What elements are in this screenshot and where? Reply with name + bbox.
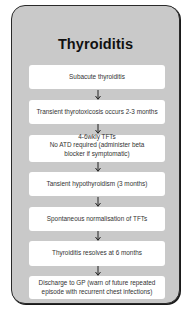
step-box-6: Thyroiditis resolves at 6 months — [29, 241, 165, 266]
step-text: Spontaneous normalisation of TFTs — [47, 215, 147, 223]
step-text: No ATD required (administer beta — [50, 141, 145, 149]
step-text: Discharge to GP (warn of future repeated — [39, 279, 156, 287]
step-box-5: Spontaneous normalisation of TFTs — [29, 207, 165, 231]
down-arrow-icon — [95, 266, 101, 276]
step-box-4: Tansient hypothyroidism (3 months) — [29, 172, 165, 196]
step-text: Thyroiditis resolves at 6 months — [52, 249, 142, 257]
down-arrow-icon — [95, 90, 101, 100]
down-arrow-icon — [95, 162, 101, 172]
step-text: blocker if symptomatic) — [64, 150, 129, 158]
step-box-2: Transient thyrotoxicosis occurs 2-3 mont… — [29, 100, 165, 124]
step-text: 4-6wkly TFTs — [78, 133, 116, 141]
step-box-1: Subacute thyroiditis — [29, 65, 165, 89]
step-text: Transient thyrotoxicosis occurs 2-3 mont… — [36, 108, 157, 116]
flowchart-title: Thyroiditis — [12, 36, 179, 52]
flowchart-panel: Thyroiditis Subacute thyroiditis Transie… — [11, 5, 180, 304]
step-text: episode with recurrent chest infections) — [42, 288, 153, 296]
step-text: Subacute thyroiditis — [69, 73, 125, 81]
step-box-7: Discharge to GP (warn of future repeated… — [29, 276, 165, 299]
step-text: Tansient hypothyroidism (3 months) — [47, 180, 148, 188]
down-arrow-icon — [95, 231, 101, 241]
down-arrow-icon — [95, 197, 101, 207]
step-box-3: 4-6wkly TFTs No ATD required (administer… — [29, 135, 165, 162]
